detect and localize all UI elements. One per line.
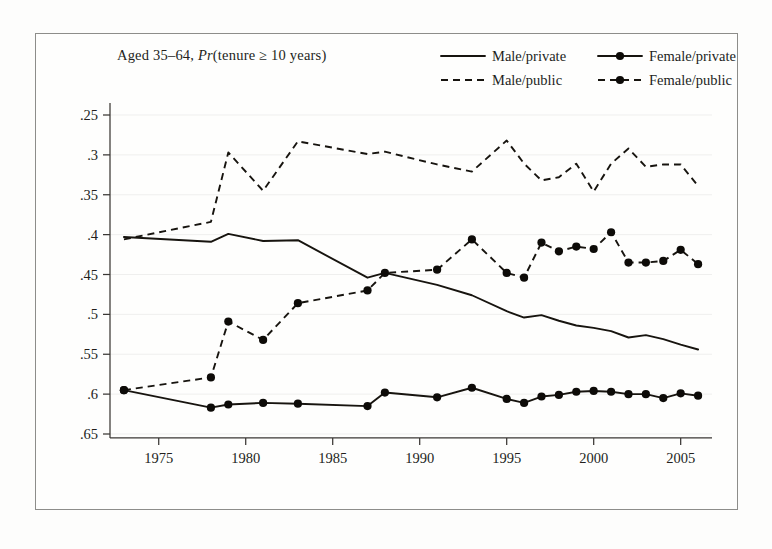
series-line-female-public [124, 232, 698, 390]
data-point [224, 317, 232, 325]
y-tick-label: .5 [87, 306, 98, 322]
x-tick-label: 1980 [231, 450, 260, 466]
legend-entry: Male/private [441, 48, 566, 64]
y-tick-label: .3 [87, 147, 98, 163]
data-point [520, 399, 528, 407]
data-point [607, 228, 615, 236]
data-point [642, 258, 650, 266]
y-tick-label: .6 [87, 386, 98, 402]
data-point [659, 257, 667, 265]
data-point [294, 299, 302, 307]
data-point [381, 388, 389, 396]
y-tick-label: .25 [80, 107, 98, 123]
data-point [537, 392, 545, 400]
data-point [363, 286, 371, 294]
y-tick-label: .55 [80, 346, 98, 362]
data-point [694, 392, 702, 400]
legend-entry: Female/public [598, 72, 732, 88]
data-point [694, 260, 702, 268]
x-axis: 1975198019851990199520002005 [110, 438, 712, 466]
gridlines [110, 115, 712, 434]
chart-legend: Male/privateFemale/privateMale/publicFem… [441, 48, 736, 88]
data-point [468, 384, 476, 392]
data-point [677, 246, 685, 254]
data-point [207, 404, 215, 412]
data-point [468, 235, 476, 243]
data-point [572, 242, 580, 250]
data-point [590, 245, 598, 253]
y-tick-label: .65 [80, 426, 98, 442]
x-tick-label: 1995 [492, 450, 521, 466]
data-point [659, 394, 667, 402]
legend-label: Male/private [492, 48, 566, 64]
series-layer [120, 141, 702, 412]
data-point [259, 336, 267, 344]
x-tick-label: 1990 [405, 450, 434, 466]
data-point [642, 390, 650, 398]
legend-entry: Male/public [441, 72, 562, 88]
y-tick-label: .45 [80, 267, 98, 283]
data-point [363, 402, 371, 410]
data-point [381, 269, 389, 277]
data-point [677, 389, 685, 397]
legend-marker [616, 76, 624, 84]
legend-label: Female/private [649, 48, 736, 64]
data-point [590, 387, 598, 395]
data-point [224, 400, 232, 408]
x-tick-label: 2005 [666, 450, 695, 466]
data-point [555, 391, 563, 399]
data-point [503, 395, 511, 403]
y-axis: .65.6.55.5.45.4.35.3.25 [80, 103, 110, 442]
data-point [624, 390, 632, 398]
y-tick-label: .35 [80, 187, 98, 203]
data-point [433, 266, 441, 274]
data-point [537, 239, 545, 247]
legend-label: Female/public [649, 72, 732, 88]
legend-entry: Female/private [598, 48, 736, 64]
data-point [120, 386, 128, 394]
data-point [259, 399, 267, 407]
data-point [624, 258, 632, 266]
x-tick-label: 1985 [318, 450, 347, 466]
chart-subtitle: Aged 35–64, Pr(tenure ≥ 10 years) [117, 47, 326, 64]
line-chart: .65.6.55.5.45.4.35.3.25 1975198019851990… [0, 0, 772, 549]
data-point [294, 400, 302, 408]
data-point [433, 393, 441, 401]
figure-page: .65.6.55.5.45.4.35.3.25 1975198019851990… [0, 0, 772, 549]
data-point [520, 274, 528, 282]
data-point [503, 269, 511, 277]
data-point [555, 247, 563, 255]
data-point [572, 388, 580, 396]
legend-label: Male/public [492, 72, 562, 88]
legend-marker [616, 52, 624, 60]
x-tick-label: 2000 [579, 450, 608, 466]
x-tick-label: 1975 [144, 450, 173, 466]
y-tick-label: .4 [87, 227, 99, 243]
data-point [207, 373, 215, 381]
data-point [607, 388, 615, 396]
series-line-male-private [124, 234, 698, 350]
